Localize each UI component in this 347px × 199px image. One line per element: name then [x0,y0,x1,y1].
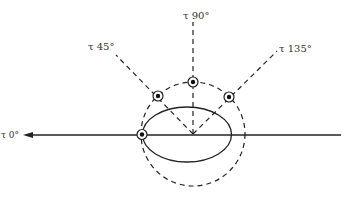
label-tau-45: τ 45° [88,41,114,52]
label-tau-0: τ 0° [1,130,19,140]
polarization-diagram: τ 0° τ 45° τ 90° τ 135° [0,0,347,199]
marker-90 [188,77,198,87]
marker-0 [137,130,147,140]
ray-135 [193,51,277,134]
label-tau-135: τ 135° [279,43,312,54]
marker-135 [224,92,234,102]
label-tau-90: τ 90° [183,10,209,21]
arrowhead-left-icon [23,132,33,138]
horizontal-axis [23,132,341,138]
marker-45 [153,91,163,101]
